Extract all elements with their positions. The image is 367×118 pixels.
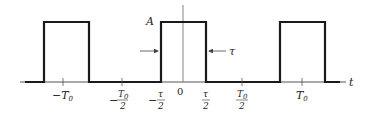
tick-label-neg-tau-half: − τ 2 (148, 89, 165, 111)
tick-label-tau-half: τ 2 (202, 89, 210, 111)
pulse-train-signal (25, 22, 340, 82)
svg-text:2: 2 (238, 101, 245, 111)
svg-text:τ: τ (203, 89, 209, 99)
svg-text:2: 2 (202, 101, 209, 111)
svg-text:−: − (148, 94, 157, 107)
svg-text:T0: T0 (237, 89, 248, 101)
tick-label-T0: T0 (296, 89, 308, 103)
time-axis-label: t (349, 76, 354, 89)
tick-label-zero: 0 (177, 86, 183, 97)
svg-text:T0: T0 (118, 89, 129, 101)
svg-text:2: 2 (157, 101, 164, 111)
svg-text:τ: τ (158, 89, 164, 99)
tick-label-T0-half: T0 2 (236, 89, 248, 111)
svg-text:2: 2 (119, 101, 126, 111)
tick-label-neg-T0: −T0 (52, 89, 74, 103)
pulse-train-diagram: t A τ −T0 − T0 2 − τ 2 0 τ 2 (0, 0, 367, 118)
amplitude-label: A (145, 15, 154, 28)
svg-text:−: − (109, 94, 118, 107)
svg-text:−T0: −T0 (52, 89, 74, 103)
tick-label-neg-T0-half: − T0 2 (109, 89, 129, 111)
svg-text:T0: T0 (296, 89, 308, 103)
width-label-tau: τ (229, 45, 236, 58)
